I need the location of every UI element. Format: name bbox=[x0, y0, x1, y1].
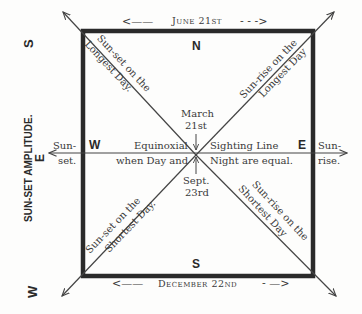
diagram-canvas: <—— June 21st - - -> <—— December 22nd -… bbox=[0, 0, 362, 314]
june-caption: June 21st bbox=[171, 15, 222, 26]
east-sunrise-line2: rise. bbox=[318, 155, 340, 166]
december-caption: December 22nd bbox=[158, 278, 237, 289]
sun-amplitude-diagram: <—— June 21st - - -> <—— December 22nd -… bbox=[0, 0, 362, 314]
march-line1: March bbox=[181, 108, 215, 119]
equinox-right-top: Sighting Line bbox=[210, 140, 278, 151]
equinox-right-bottom: Night are equal. bbox=[210, 155, 293, 166]
march-line2: 21st bbox=[185, 120, 207, 131]
sept-line1: Sept. bbox=[183, 175, 209, 186]
june-left-arrow: <—— bbox=[122, 15, 153, 28]
left-compass-s: S bbox=[21, 39, 36, 48]
label-south: S bbox=[192, 257, 200, 271]
december-left-arrow: <—— bbox=[112, 277, 143, 290]
left-compass-w: W bbox=[25, 285, 40, 298]
equinox-left-bottom: when Day and bbox=[116, 155, 189, 166]
label-east: E bbox=[298, 138, 306, 152]
west-sunset-line2: set. bbox=[58, 155, 76, 166]
sept-line2: 23rd bbox=[185, 187, 210, 198]
west-sunset-line1: Sun- bbox=[53, 140, 76, 151]
east-sunrise-line1: Sun- bbox=[318, 140, 341, 151]
label-west: W bbox=[89, 138, 101, 152]
left-compass-e: E bbox=[33, 154, 47, 162]
june-right-arrow: - - -> bbox=[240, 15, 267, 28]
equinox-left-top: Equinoxial bbox=[134, 140, 188, 151]
label-north: N bbox=[192, 39, 201, 53]
sunset-amplitude-label: SUN-SET AMPLITUDE. bbox=[23, 114, 34, 222]
december-right-arrow: - —> bbox=[262, 277, 289, 290]
